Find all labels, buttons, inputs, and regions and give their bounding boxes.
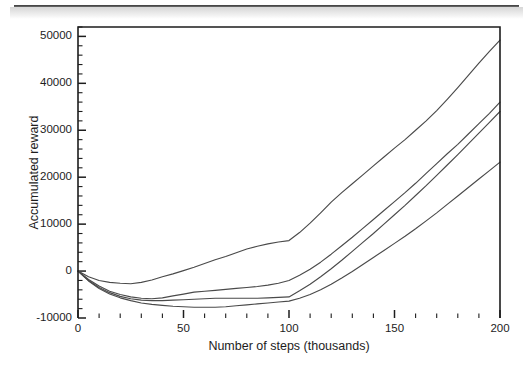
y-tick-label: 0 <box>66 264 72 276</box>
series-line-curve-4 <box>78 162 500 307</box>
y-tick-label: 40000 <box>40 76 72 88</box>
series-line-curve-3 <box>78 111 500 300</box>
data-series-group <box>78 40 500 307</box>
y-tick-label: 30000 <box>40 123 72 135</box>
plot-frame <box>78 27 500 318</box>
y-tick-label: 10000 <box>40 217 72 229</box>
x-axis-tick-labels: 050100150200 <box>75 322 510 334</box>
x-tick-label: 200 <box>490 322 509 334</box>
y-axis-title: Accumulated reward <box>27 115 41 229</box>
x-tick-label: 150 <box>385 322 404 334</box>
y-tick-label: 50000 <box>40 29 72 41</box>
x-tick-label: 100 <box>279 322 298 334</box>
chart-figure: -1000001000020000300004000050000 0501001… <box>0 0 531 371</box>
x-axis-title: Number of steps (thousands) <box>208 339 369 353</box>
x-tick-label: 50 <box>177 322 190 334</box>
line-chart: -1000001000020000300004000050000 0501001… <box>0 0 531 371</box>
y-axis-major-ticks <box>78 36 86 318</box>
y-tick-label: 20000 <box>40 170 72 182</box>
series-line-curve-1 <box>78 40 500 284</box>
x-tick-label: 0 <box>75 322 81 334</box>
y-tick-label: -10000 <box>36 311 72 323</box>
y-axis-tick-labels: -1000001000020000300004000050000 <box>36 29 72 323</box>
series-line-curve-2 <box>78 102 500 299</box>
